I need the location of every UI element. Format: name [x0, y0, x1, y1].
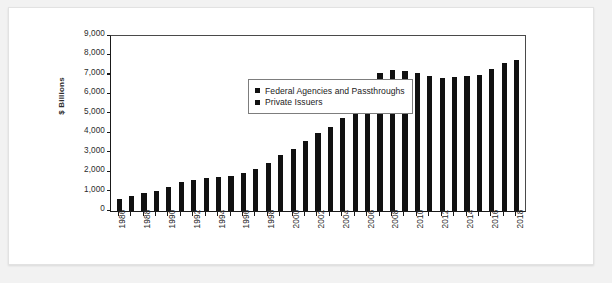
- bar-slot: [312, 36, 324, 211]
- y-axis-tick-label: 2,000: [84, 165, 105, 174]
- x-axis-label-slot: [423, 218, 435, 260]
- bar-slot: [374, 36, 386, 211]
- bar: [228, 176, 233, 211]
- x-axis-label-slot: [497, 218, 509, 260]
- x-axis-label-slot: [398, 218, 410, 260]
- bar: [253, 169, 258, 211]
- bar-slot: [324, 36, 336, 211]
- y-axis-tick-label: 5,000: [84, 107, 105, 116]
- x-axis-label-slot: [323, 218, 335, 260]
- x-axis-tick-mark: [503, 210, 504, 216]
- x-axis-label-slot: [199, 218, 211, 260]
- x-axis-label-slot: 2016: [485, 218, 497, 260]
- x-axis-tick-mark: [279, 210, 280, 216]
- bar: [477, 75, 482, 211]
- bar-slot: [486, 36, 498, 211]
- bar: [340, 118, 345, 211]
- y-axis-tick-label: 3,000: [84, 146, 105, 155]
- x-axis-tick-mark: [130, 210, 131, 216]
- x-axis-label-slot: 1994: [211, 218, 223, 260]
- x-axis-label-slot: 2002: [311, 218, 323, 260]
- bar-slot: [361, 36, 373, 211]
- x-axis-label-slot: [149, 218, 161, 260]
- chart-card: $ Billions 9,0008,0007,0006,0005,0004,00…: [8, 7, 594, 265]
- x-axis-label-slot: 2014: [460, 218, 472, 260]
- x-axis-label-slot: [174, 218, 186, 260]
- x-axis-tick-mark: [354, 210, 355, 216]
- x-axis-label-slot: 2004: [336, 218, 348, 260]
- y-axis-tick-label: 8,000: [84, 48, 105, 57]
- bar-slot: [237, 36, 249, 211]
- x-axis-tick-mark: [329, 210, 330, 216]
- x-axis-label-slot: 1992: [187, 218, 199, 260]
- bar-slot: [200, 36, 212, 211]
- bar: [166, 187, 171, 211]
- bar-slot: [163, 36, 175, 211]
- x-axis-label-slot: 2018: [510, 218, 522, 260]
- x-axis-label-slot: 1986: [112, 218, 124, 260]
- x-axis-tick-mark: [230, 210, 231, 216]
- y-axis-tick-label: 7,000: [84, 68, 105, 77]
- bar-slot: [399, 36, 411, 211]
- x-axis-labels: 1986198819901992199419961998200020022004…: [110, 218, 524, 260]
- bar: [514, 60, 519, 211]
- bar-slot: [349, 36, 361, 211]
- bar: [154, 191, 159, 211]
- legend-item: Private Issuers: [255, 97, 405, 107]
- bar: [129, 196, 134, 211]
- x-axis-tick-mark: [304, 210, 305, 216]
- bar: [241, 173, 246, 212]
- x-axis-tick-mark: [478, 210, 479, 216]
- legend-swatch-icon: [255, 100, 260, 105]
- bar: [415, 73, 420, 211]
- bar-slot: [511, 36, 523, 211]
- y-axis-tick-label: 9,000: [84, 29, 105, 38]
- bar: [291, 149, 296, 211]
- x-axis-tick-mark: [205, 210, 206, 216]
- x-axis-label-slot: [249, 218, 261, 260]
- x-axis-tick-mark: [428, 210, 429, 216]
- bar-slot: [225, 36, 237, 211]
- bar-slot: [461, 36, 473, 211]
- x-axis-label-slot: [447, 218, 459, 260]
- x-axis-label-slot: 2000: [286, 218, 298, 260]
- x-axis-tick-mark: [254, 210, 255, 216]
- x-axis-tick-mark: [379, 210, 380, 216]
- x-axis-tick-mark: [403, 210, 404, 216]
- legend-label: Federal Agencies and Passthroughs: [265, 86, 405, 96]
- legend-swatch-icon: [255, 88, 260, 93]
- bar-slot: [473, 36, 485, 211]
- bar-slot: [436, 36, 448, 211]
- bar: [427, 76, 432, 211]
- bar: [278, 155, 283, 211]
- bar: [440, 78, 445, 211]
- x-axis-label-slot: [472, 218, 484, 260]
- x-axis-tick-mark: [180, 210, 181, 216]
- legend-item: Federal Agencies and Passthroughs: [255, 86, 405, 96]
- bar-slot: [424, 36, 436, 211]
- x-axis-label-slot: [124, 218, 136, 260]
- bar: [328, 127, 333, 211]
- bar: [141, 193, 146, 211]
- x-axis-label-slot: 2010: [410, 218, 422, 260]
- x-axis-label-slot: 2006: [360, 218, 372, 260]
- bar-slot: [150, 36, 162, 211]
- bar: [266, 163, 271, 211]
- bar: [464, 76, 469, 211]
- bar-chart-figure: $ Billions 9,0008,0007,0006,0005,0004,00…: [9, 8, 595, 266]
- bar-slot: [299, 36, 311, 211]
- x-axis-label-slot: [373, 218, 385, 260]
- x-axis-label-slot: 1990: [162, 218, 174, 260]
- bar-slot: [125, 36, 137, 211]
- bar-series-group: [111, 36, 525, 211]
- bar: [315, 133, 320, 211]
- bar-slot: [113, 36, 125, 211]
- x-axis-tick-mark: [453, 210, 454, 216]
- bar: [191, 180, 196, 211]
- x-axis-label-slot: 1988: [137, 218, 149, 260]
- x-axis-tick-mark: [155, 210, 156, 216]
- x-axis-label-slot: 1996: [236, 218, 248, 260]
- bar-slot: [262, 36, 274, 211]
- legend-label: Private Issuers: [265, 97, 323, 107]
- bar-slot: [287, 36, 299, 211]
